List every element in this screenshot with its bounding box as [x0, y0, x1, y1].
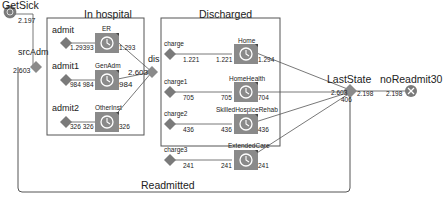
er-out-count: 1.293: [119, 45, 135, 52]
extendedcare-delay-node-icon[interactable]: [234, 150, 258, 170]
home-in-count: 1.221: [216, 57, 232, 64]
in-hospital-group-label: In hospital: [84, 9, 132, 20]
charge1-label: charge1: [164, 79, 188, 86]
otherinst-delay-node-icon[interactable]: [95, 112, 119, 132]
skilledhospicerehab-node-label: SkilledHospiceRehab: [216, 107, 278, 114]
last-state-out-count: 2.198: [357, 91, 373, 98]
homehealth-node-label: HomeHealth: [229, 76, 265, 83]
skilledhospicerehab-in-count: 436: [221, 127, 232, 134]
charge2-label: charge2: [164, 111, 188, 118]
charge-in-count: 1.221: [183, 57, 199, 64]
discharged-group-label: Discharged: [199, 9, 252, 20]
er-delay-node-icon[interactable]: [95, 33, 119, 53]
discharge-select-label: dis: [148, 55, 160, 64]
genadm-out-count: 984: [119, 81, 132, 89]
admit1-label: admit1: [52, 62, 79, 71]
select-admission-label: srcAdm: [18, 48, 49, 57]
home-node-label: Home: [238, 38, 255, 45]
last-state-label: LastState: [327, 74, 371, 85]
readmitted-loop-label: Readmitted: [141, 180, 195, 191]
homehealth-delay-node-icon[interactable]: [234, 82, 258, 102]
genadm-node-label: GenAdm: [95, 63, 121, 70]
skilledhospicerehab-delay-node-icon[interactable]: [234, 114, 258, 134]
admit-label: admit: [52, 26, 74, 35]
extendedcare-node-label: ExtendedCare: [228, 143, 270, 150]
er-node-label: ER: [102, 26, 111, 33]
homehealth-in-count: 705: [221, 95, 232, 102]
admit-in-count: 1.29393: [70, 45, 94, 52]
last-state-loop-count: 406: [341, 97, 352, 104]
otherinst-out-count: 326: [119, 124, 130, 131]
home-delay-node-icon[interactable]: [234, 44, 258, 64]
source-count: 2.197: [18, 17, 36, 24]
charge3-in-count: 241: [183, 163, 194, 170]
admit2-in-count: 326 326: [70, 124, 94, 131]
charge-label: charge: [164, 41, 184, 48]
charge3-label: charge3: [164, 147, 188, 154]
homehealth-out-count: 704: [258, 95, 269, 102]
otherinst-node-label: OtherInst: [95, 105, 122, 112]
sink-count: 2.198: [386, 91, 402, 98]
source-label: GetSick: [2, 0, 39, 11]
select-output-diamond-icon[interactable]: [30, 61, 42, 73]
select-admission-count: 2.603: [13, 67, 31, 74]
skilledhospicerehab-out-count: 436: [258, 127, 269, 134]
admit2-label: admit2: [52, 104, 79, 113]
sink-label: noReadmit30: [380, 74, 442, 85]
extendedcare-out-count: 241: [258, 163, 269, 170]
charge1-in-count: 705: [183, 95, 194, 102]
discharge-select-count: 2.603: [128, 69, 148, 77]
sink-node-icon[interactable]: [405, 85, 417, 97]
extendedcare-in-count: 241: [221, 163, 232, 170]
admit1-in-count: 984 984: [70, 82, 94, 89]
charge2-in-count: 436: [183, 127, 194, 134]
genadm-delay-node-icon[interactable]: [95, 70, 119, 90]
home-out-count: 1.294: [258, 57, 274, 64]
